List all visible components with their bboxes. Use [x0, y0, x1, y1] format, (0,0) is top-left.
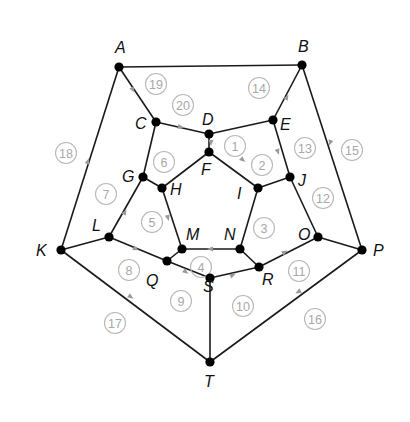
face-number-12: 12: [313, 188, 334, 209]
vertex-n: [235, 244, 244, 253]
vertex-label-m: M: [186, 226, 200, 243]
vertex-t: [205, 357, 214, 366]
vertex-o: [313, 232, 322, 241]
edge-i-n: [240, 188, 258, 249]
vertex-label-a: A: [114, 39, 126, 56]
vertex-k: [56, 245, 65, 254]
face-number-9: 9: [171, 291, 192, 312]
edge-k-t: [61, 250, 210, 362]
face-number-label: 20: [176, 99, 190, 113]
vertex-label-g: G: [122, 168, 134, 185]
vertex-b: [297, 60, 306, 69]
vertex-j: [285, 172, 294, 181]
face-number-label: 15: [345, 144, 359, 158]
vertex-label-d: D: [202, 111, 214, 128]
vertex-i: [253, 183, 262, 192]
vertex-label-b: B: [298, 38, 309, 55]
vertex-label-p: P: [373, 242, 384, 259]
face-number-label: 4: [198, 261, 205, 275]
arrow-icon: [239, 156, 247, 164]
face-number-5: 5: [142, 212, 163, 233]
vertex-label-o: O: [298, 226, 310, 243]
face-number-label: 6: [161, 156, 168, 170]
face-number-label: 8: [126, 264, 133, 278]
vertex-label-i: I: [237, 185, 242, 202]
edge-l-q: [109, 237, 167, 261]
face-number-10: 10: [233, 296, 254, 317]
vertex-e: [268, 115, 277, 124]
edge-r-s: [210, 267, 259, 278]
face-number-13: 13: [295, 138, 316, 159]
face-number-1: 1: [225, 136, 246, 157]
edge-g-l: [109, 177, 143, 237]
face-number-label: 10: [236, 300, 250, 314]
vertex-label-l: L: [92, 217, 101, 234]
vertex-d: [204, 129, 213, 138]
vertex-a: [114, 62, 123, 71]
vertex-l: [104, 232, 113, 241]
face-number-label: 7: [103, 188, 110, 202]
face-number-20: 20: [173, 95, 194, 116]
graph-diagram: 1234567891011121314151617181920 ABCDEFGH…: [0, 0, 410, 422]
face-number-19: 19: [146, 74, 167, 95]
face-number-label: 16: [308, 313, 322, 327]
vertex-label-e: E: [280, 116, 291, 133]
vertex-label-j: J: [297, 172, 307, 189]
face-number-label: 11: [293, 265, 306, 279]
edge-a-b: [119, 65, 302, 67]
vertex-g: [138, 172, 147, 181]
vertex-label-n: N: [224, 226, 236, 243]
face-number-label: 3: [261, 222, 268, 236]
face-number-16: 16: [305, 309, 326, 330]
face-number-label: 5: [149, 216, 156, 230]
vertex-f: [204, 147, 213, 156]
edge-k-l: [61, 237, 109, 250]
face-number-label: 1: [232, 140, 239, 154]
vertex-label-h: H: [170, 181, 182, 198]
face-number-11: 11: [289, 261, 310, 282]
arrow-icon: [275, 148, 282, 155]
face-number-17: 17: [105, 313, 126, 334]
face-number-label: 17: [108, 317, 122, 331]
vertex-q: [162, 256, 171, 265]
vertex-label-t: T: [204, 373, 215, 390]
face-number-label: 14: [252, 82, 266, 96]
edge-f-i: [209, 152, 258, 188]
edge-i-j: [258, 177, 290, 188]
face-number-7: 7: [96, 184, 117, 205]
vertex-label-f: F: [201, 161, 212, 178]
face-number-15: 15: [342, 140, 363, 161]
face-number-label: 19: [149, 78, 163, 92]
vertex-m: [177, 244, 186, 253]
face-number-label: 12: [316, 192, 330, 206]
edge-o-p: [318, 237, 362, 250]
vertex-label-s: S: [203, 278, 214, 295]
vertex-p: [357, 245, 366, 254]
face-number-8: 8: [119, 260, 140, 281]
face-number-3: 3: [254, 218, 275, 239]
vertex-label-c: C: [135, 115, 147, 132]
face-number-6: 6: [154, 152, 175, 173]
vertex-label-r: R: [262, 271, 274, 288]
edge-b-e: [273, 65, 302, 120]
edge-d-e: [209, 120, 273, 134]
face-number-14: 14: [249, 78, 270, 99]
face-number-label: 13: [298, 142, 312, 156]
arrow-icon: [178, 124, 185, 130]
vertex-label-k: K: [36, 242, 48, 259]
vertex-c: [151, 117, 160, 126]
vertex-label-q: Q: [146, 272, 158, 289]
face-number-label: 2: [259, 159, 266, 173]
face-number-18: 18: [56, 143, 77, 164]
face-number-label: 9: [178, 295, 185, 309]
face-number-label: 18: [59, 147, 73, 161]
arrow-icon: [207, 247, 213, 252]
vertex-h: [157, 183, 166, 192]
face-number-2: 2: [252, 155, 273, 176]
